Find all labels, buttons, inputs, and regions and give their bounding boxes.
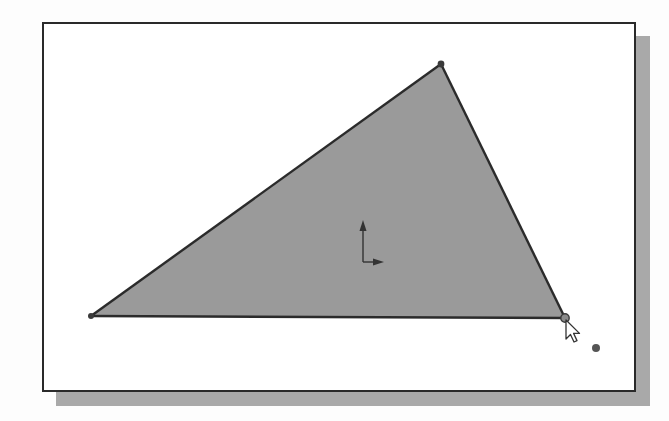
vertex-point-right-highlighted[interactable] — [561, 314, 569, 322]
sketch-canvas[interactable] — [0, 0, 669, 421]
triangle-sketch-region[interactable] — [91, 64, 565, 318]
arrow-pointer-icon — [566, 320, 580, 342]
graphics-stage — [0, 0, 669, 421]
vertex-point-top[interactable] — [438, 61, 445, 68]
vertex-point-left[interactable] — [88, 313, 94, 319]
inference-point-dot — [592, 344, 600, 352]
